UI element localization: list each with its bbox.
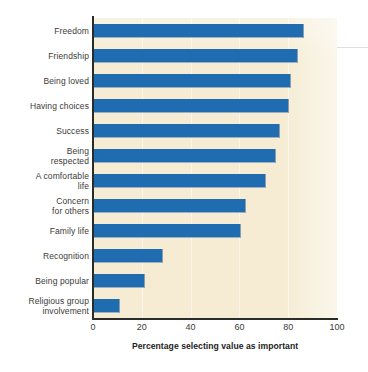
scan-artifact-line <box>337 47 368 48</box>
category-label: Success <box>56 126 89 136</box>
category-label: Having choices <box>30 101 89 111</box>
bar <box>93 174 266 188</box>
bar <box>93 199 246 213</box>
y-axis-line <box>92 16 94 320</box>
category-label: Being popular <box>35 276 89 286</box>
category-label: Being loved <box>43 76 89 86</box>
bar <box>93 74 291 88</box>
bar-chart-figure: FreedomFriendshipBeing lovedHaving choic… <box>0 0 368 372</box>
bar-row <box>93 249 337 263</box>
bar <box>93 249 163 263</box>
bar-row <box>93 99 337 113</box>
bar <box>93 299 120 313</box>
category-label: Friendship <box>48 51 89 61</box>
bar-row <box>93 299 337 313</box>
x-axis-title: Percentage selecting value as important <box>93 341 337 351</box>
plot-area <box>93 18 337 318</box>
bar <box>93 274 145 288</box>
category-label: A comfortable life <box>36 171 89 191</box>
bar <box>93 24 304 38</box>
bar <box>93 124 280 138</box>
x-tick-label-0: 0 <box>80 322 106 333</box>
x-axis-line <box>92 318 338 320</box>
x-tick-label-80: 80 <box>275 322 301 333</box>
gridline-100 <box>337 18 338 318</box>
bar <box>93 149 276 163</box>
category-label: Being respected <box>51 146 89 166</box>
bar <box>93 49 298 63</box>
bar-row <box>93 124 337 138</box>
x-tick-label-20: 20 <box>129 322 155 333</box>
bar <box>93 224 241 238</box>
bar-row <box>93 274 337 288</box>
x-tick-label-60: 60 <box>226 322 252 333</box>
x-tick-label-100: 100 <box>324 322 350 333</box>
bar-row <box>93 224 337 238</box>
category-label: Family life <box>50 226 89 236</box>
bar-row <box>93 174 337 188</box>
bar-row <box>93 24 337 38</box>
bar-row <box>93 149 337 163</box>
bar <box>93 99 289 113</box>
bar-row <box>93 199 337 213</box>
category-label: Religious group involvement <box>28 296 89 316</box>
bar-row <box>93 74 337 88</box>
category-label: Freedom <box>54 26 89 36</box>
category-label: Recognition <box>43 251 89 261</box>
x-tick-label-40: 40 <box>178 322 204 333</box>
category-label: Concern for others <box>52 196 89 216</box>
bar-row <box>93 49 337 63</box>
